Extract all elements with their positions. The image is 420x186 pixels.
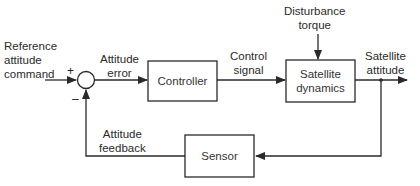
- sensor-block-label: Sensor: [185, 135, 254, 177]
- controller-block-label: Controller: [148, 61, 217, 101]
- satellite-dynamics-text-line2: dynamics: [296, 81, 345, 95]
- disturbance-label: Disturbance torque: [284, 4, 345, 32]
- control-label-line1: Control: [230, 49, 267, 63]
- error-label-line1: Attitude: [100, 52, 139, 66]
- error-label-line2: error: [100, 66, 139, 80]
- reference-label-line1: Reference: [4, 39, 57, 53]
- reference-label: Reference attitude command: [4, 39, 57, 81]
- output-label: Satellite attitude: [365, 49, 406, 77]
- minus-sign: –: [72, 93, 79, 105]
- sensor-text: Sensor: [201, 149, 237, 163]
- disturbance-label-line1: Disturbance: [284, 4, 345, 18]
- reference-label-line3: command: [4, 67, 57, 81]
- feedback-label-line1: Attitude: [99, 127, 146, 141]
- controller-text: Controller: [158, 74, 208, 88]
- feedback-label-line2: feedback: [99, 141, 146, 155]
- satellite-dynamics-block-label: Satellite dynamics: [286, 60, 355, 102]
- reference-label-line2: attitude: [4, 53, 57, 67]
- satellite-dynamics-text-line1: Satellite: [300, 67, 341, 81]
- feedback-label: Attitude feedback: [99, 127, 146, 155]
- control-signal-label: Control signal: [230, 49, 267, 77]
- plus-sign: +: [67, 65, 74, 77]
- disturbance-label-line2: torque: [284, 18, 345, 32]
- control-label-line2: signal: [230, 63, 267, 77]
- summing-junction: [78, 72, 95, 89]
- error-label: Attitude error: [100, 52, 139, 80]
- output-label-line1: Satellite: [365, 49, 406, 63]
- output-label-line2: attitude: [365, 63, 406, 77]
